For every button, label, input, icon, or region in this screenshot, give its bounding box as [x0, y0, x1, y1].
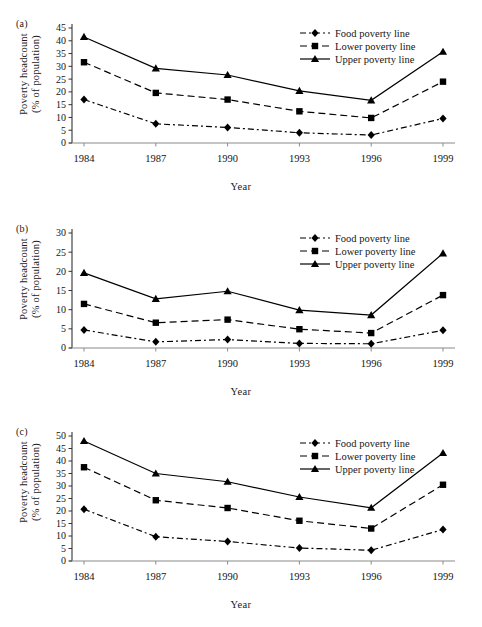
- data-point-diamond: [439, 114, 446, 122]
- y-tick-label: 10: [56, 112, 66, 123]
- legend-label: Upper poverty line: [335, 54, 415, 65]
- x-tick-label: 1987: [145, 153, 166, 164]
- poverty-headcount-figure: (a) 051015202530354045198419871990199319…: [0, 0, 482, 627]
- x-tick-label: 1993: [289, 571, 310, 582]
- data-point-diamond: [224, 123, 231, 131]
- y-tick-label: 15: [56, 518, 66, 529]
- legend-label: Lower poverty line: [335, 451, 416, 462]
- data-point-diamond: [368, 340, 375, 348]
- data-point-diamond: [296, 544, 303, 552]
- y-axis-label-line2: (% of population): [30, 14, 42, 134]
- data-point-square: [296, 108, 302, 114]
- legend-marker-square: [312, 43, 318, 49]
- line-chart-b: 051015202530198419871990199319961999Food…: [0, 205, 482, 410]
- data-point-triangle: [80, 33, 88, 40]
- y-tick-label: 20: [56, 266, 66, 277]
- data-point-diamond: [368, 131, 375, 139]
- y-tick-label: 10: [56, 530, 66, 541]
- x-tick-label: 1999: [433, 153, 454, 164]
- y-axis-label-line2: (% of population): [30, 422, 42, 542]
- y-tick-label: 40: [56, 455, 66, 466]
- y-tick-label: 0: [61, 137, 66, 148]
- data-point-square: [153, 497, 159, 503]
- chart-panel-c: (c) 051015202530354045501984198719901993…: [0, 410, 482, 627]
- y-tick-label: 5: [61, 323, 66, 334]
- y-tick-label: 25: [56, 74, 66, 85]
- data-point-diamond: [224, 538, 231, 546]
- y-tick-label: 20: [56, 505, 66, 516]
- series-line-lower-poverty-line: [84, 62, 443, 118]
- data-point-diamond: [439, 526, 446, 534]
- data-point-diamond: [152, 120, 159, 128]
- data-point-diamond: [80, 96, 87, 104]
- legend-label: Food poverty line: [335, 28, 410, 39]
- data-point-triangle: [224, 287, 232, 294]
- x-tick-label: 1993: [289, 358, 310, 369]
- y-tick-label: 20: [56, 86, 66, 97]
- data-point-square: [81, 59, 87, 65]
- data-point-square: [153, 320, 159, 326]
- data-point-diamond: [439, 326, 446, 334]
- x-tick-label: 1996: [361, 571, 382, 582]
- legend-label: Upper poverty line: [335, 259, 415, 270]
- series-line-food-poverty-line: [84, 100, 443, 136]
- data-point-triangle: [439, 249, 447, 256]
- y-tick-label: 10: [56, 304, 66, 315]
- x-tick-label: 1996: [361, 358, 382, 369]
- data-point-square: [224, 96, 230, 102]
- data-point-square: [440, 482, 446, 488]
- legend-marker-square: [312, 453, 318, 459]
- y-tick-label: 25: [56, 493, 66, 504]
- data-point-triangle: [80, 437, 88, 444]
- legend-label: Lower poverty line: [335, 246, 416, 257]
- x-tick-label: 1990: [217, 358, 238, 369]
- data-point-square: [440, 78, 446, 84]
- legend-label: Lower poverty line: [335, 41, 416, 52]
- data-point-square: [368, 525, 374, 531]
- y-tick-label: 35: [56, 48, 66, 59]
- x-tick-label: 1987: [145, 358, 166, 369]
- x-axis-label-a: Year: [0, 181, 482, 192]
- data-point-diamond: [368, 546, 375, 554]
- data-point-square: [224, 505, 230, 511]
- data-point-triangle: [439, 449, 447, 456]
- x-tick-label: 1999: [433, 358, 454, 369]
- y-tick-label: 15: [56, 99, 66, 110]
- x-tick-label: 1984: [74, 153, 96, 164]
- y-tick-label: 0: [61, 555, 66, 566]
- legend-marker-diamond: [311, 29, 318, 37]
- x-tick-label: 1990: [217, 571, 238, 582]
- y-tick-label: 30: [56, 61, 66, 72]
- y-axis-label-line1: Poverty headcount: [18, 219, 30, 339]
- data-point-diamond: [152, 533, 159, 541]
- y-tick-label: 50: [56, 430, 66, 441]
- y-tick-label: 15: [56, 285, 66, 296]
- x-tick-label: 1984: [74, 358, 96, 369]
- data-point-triangle: [152, 469, 160, 476]
- data-point-square: [153, 90, 159, 96]
- x-tick-label: 1993: [289, 153, 310, 164]
- data-point-diamond: [152, 338, 159, 346]
- data-point-diamond: [224, 336, 231, 344]
- y-tick-label: 5: [61, 125, 66, 136]
- data-point-triangle: [80, 269, 88, 276]
- data-point-square: [224, 316, 230, 322]
- series-line-food-poverty-line: [84, 509, 443, 550]
- y-axis-label-line1: Poverty headcount: [18, 422, 30, 542]
- y-tick-label: 25: [56, 247, 66, 258]
- data-point-square: [368, 115, 374, 121]
- x-tick-label: 1996: [361, 153, 382, 164]
- data-point-triangle: [439, 48, 447, 55]
- y-tick-label: 45: [56, 443, 66, 454]
- data-point-square: [296, 518, 302, 524]
- series-line-lower-poverty-line: [84, 467, 443, 528]
- y-tick-label: 40: [56, 35, 66, 46]
- x-tick-label: 1984: [74, 571, 96, 582]
- plot-area-a: 0510152025303540451984198719901993199619…: [0, 0, 482, 205]
- legend-label: Food poverty line: [335, 438, 410, 449]
- y-axis-label-line1: Poverty headcount: [18, 14, 30, 134]
- legend-marker-diamond: [311, 439, 318, 447]
- data-point-triangle: [152, 64, 160, 71]
- plot-area-c: 0510152025303540455019841987199019931996…: [0, 410, 482, 627]
- x-axis-label-b: Year: [0, 386, 482, 397]
